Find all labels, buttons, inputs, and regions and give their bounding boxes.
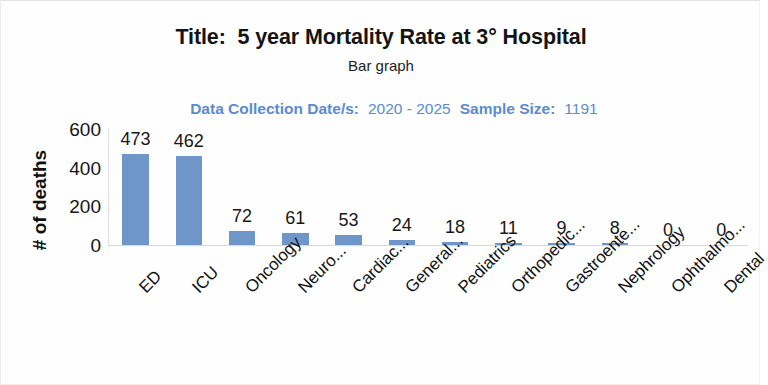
bar-value-label: 72 (216, 207, 269, 225)
bar-slot[interactable]: 462 (162, 129, 215, 245)
sample-size-label: Sample Size: (460, 100, 556, 117)
x-axis-tick-slot: Dental (695, 280, 748, 380)
bar-slot[interactable]: 61 (269, 129, 322, 245)
y-axis-tick: 600 (69, 120, 101, 139)
page-title: Title: 5 year Mortality Rate at 3° Hospi… (1, 25, 761, 50)
x-axis-tick-slot: Oncology (216, 280, 269, 380)
x-axis-tick-slot: General... (375, 280, 428, 380)
y-axis-tick: 200 (69, 197, 101, 216)
bar-slot[interactable]: 11 (482, 129, 535, 245)
chart-subtitle: Bar graph (1, 57, 761, 74)
x-axis-tick-slot: ED (109, 280, 162, 380)
x-axis-tick-slot: Pediatrics (429, 280, 482, 380)
x-axis-tick-slot: Nephrology (588, 280, 641, 380)
x-axis-tick-slot: Orthopedic... (482, 280, 535, 380)
x-axis-tick-slot: Cardiac... (322, 280, 375, 380)
bar-value-label: 53 (322, 211, 375, 229)
bar-value-label: 24 (375, 216, 428, 234)
x-axis-tick-slot: Ophthalmo... (642, 280, 695, 380)
bar-value-label: 462 (162, 132, 215, 150)
y-axis-tick: 400 (69, 158, 101, 177)
bar-slot[interactable]: 473 (109, 129, 162, 245)
y-axis-tick-labels: 6004002000 (55, 129, 101, 245)
bar-slot[interactable]: 72 (216, 129, 269, 245)
x-axis-tick-slot: Neuro... (269, 280, 322, 380)
bar-value-label: 473 (109, 130, 162, 148)
y-axis-title: # of deaths (29, 135, 51, 265)
sample-size-value: 1191 (564, 100, 597, 117)
bar-slot[interactable]: 24 (375, 129, 428, 245)
data-collection-label: Data Collection Date/s: (190, 100, 359, 117)
chart-header: Title: 5 year Mortality Rate at 3° Hospi… (1, 25, 761, 137)
data-collection-value: 2020 - 2025 (368, 100, 451, 117)
bar[interactable] (229, 231, 256, 245)
bar-series: 4734627261532418119800 (109, 129, 748, 245)
x-axis-tick-slot: ICU (162, 280, 215, 380)
bar[interactable] (176, 156, 203, 245)
bar-slot[interactable]: 18 (429, 129, 482, 245)
y-axis-tick: 0 (90, 236, 101, 255)
x-axis-tick-slot: Gastroente... (535, 280, 588, 380)
bar-value-label: 61 (269, 209, 322, 227)
bar[interactable] (122, 154, 149, 245)
bar-slot[interactable]: 53 (322, 129, 375, 245)
x-axis-tick-labels: EDICUOncologyNeuro...Cardiac...General..… (109, 280, 748, 380)
